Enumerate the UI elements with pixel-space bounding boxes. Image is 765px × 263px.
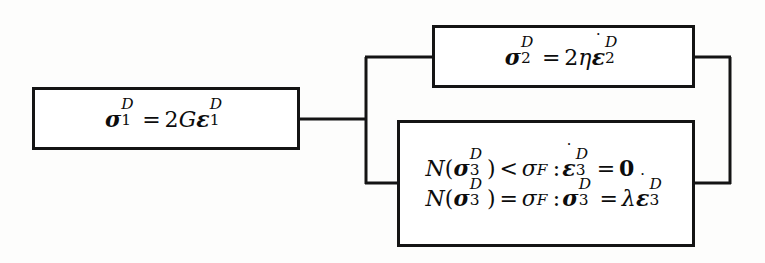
norm-operator-2: N	[425, 186, 444, 211]
viscosity-symbol: η	[578, 45, 591, 70]
plastic-equals-1: =	[593, 156, 619, 181]
viscous-strain-rate-indices: D2	[605, 43, 622, 65]
plastic-relation-1: <	[496, 156, 522, 181]
yield-stress-subscript-1: F	[537, 154, 551, 176]
plastic-strain-rate-symbol-2: ˙ε	[636, 184, 649, 214]
viscous-relation: =	[538, 45, 564, 70]
plastic-equation-stack: N(σD3)<σF:˙εD3=0 N(σD3)=σF:σD3=λ˙εD3	[425, 154, 666, 213]
plastic-colon-2: :	[550, 186, 562, 211]
elastic-modulus: G	[179, 107, 197, 132]
yield-stress-symbol-1: σ	[522, 156, 537, 181]
figure-canvas: σD1=2GεD1 σD2=2η˙εD2 N(σD3)<σF:˙εD3=0 N(…	[0, 0, 765, 263]
plastic-stress-symbol-3: σ	[562, 185, 578, 211]
viscous-element-box: σD2=2η˙εD2	[432, 25, 695, 88]
plastic-strain-rate-indices-1: D3	[576, 154, 593, 176]
plastic-relation-2: =	[496, 186, 522, 211]
elastic-element-box: σD1=2GεD1	[32, 87, 300, 150]
viscous-stress-indices: D2	[521, 43, 538, 65]
elastic-stress-symbol: σ	[105, 106, 121, 132]
plastic-equation-line-1: N(σD3)<σF:˙εD3=0	[425, 154, 634, 184]
yield-stress-symbol-2: σ	[522, 186, 537, 211]
elastic-stress-indices: D1	[121, 105, 138, 127]
viscous-equation: σD2=2η˙εD2	[505, 43, 623, 70]
elastic-strain-indices: D1	[210, 105, 227, 127]
plastic-stress-symbol-1: σ	[454, 155, 470, 181]
plastic-strain-rate-indices-2: D3	[649, 184, 666, 206]
plastic-equals-2: =	[596, 186, 622, 211]
plastic-stress-indices-2: D3	[470, 184, 487, 206]
norm-operator-1: N	[425, 156, 444, 181]
plastic-colon-1: :	[550, 156, 562, 181]
viscous-coefficient: 2	[564, 45, 578, 70]
elastic-strain-symbol: ε	[196, 106, 209, 132]
viscous-stress-symbol: σ	[505, 44, 521, 70]
elastic-relation: =	[139, 107, 165, 132]
elastic-equation: σD1=2GεD1	[105, 105, 227, 132]
plastic-equation-line-2: N(σD3)=σF:σD3=λ˙εD3	[425, 184, 666, 214]
plastic-stress-symbol-2: σ	[454, 185, 470, 211]
plastic-zero-value: 0	[619, 155, 634, 181]
plastic-stress-indices-3: D3	[579, 184, 596, 206]
plastic-multiplier: λ	[622, 186, 636, 211]
plastic-element-box: N(σD3)<σF:˙εD3=0 N(σD3)=σF:σD3=λ˙εD3	[397, 120, 695, 247]
plastic-strain-rate-symbol-1: ˙ε	[562, 154, 575, 184]
viscous-strain-rate-symbol: ˙ε	[592, 44, 605, 70]
plastic-stress-indices-1: D3	[470, 154, 487, 176]
yield-stress-subscript-2: F	[537, 184, 551, 206]
elastic-coefficient: 2	[165, 107, 179, 132]
